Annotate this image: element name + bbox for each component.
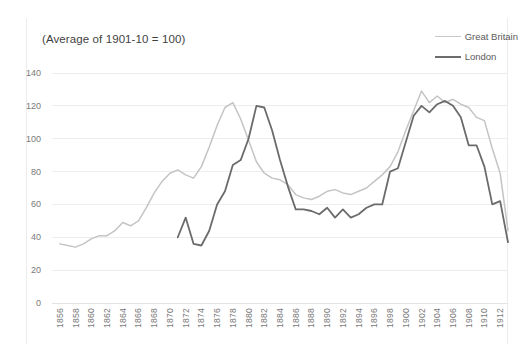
x-axis-tick: 1860 bbox=[85, 308, 97, 348]
y-axis-tick-label: 80 bbox=[31, 167, 41, 177]
x-axis-tick: 1870 bbox=[164, 308, 176, 348]
x-axis-tick: 1866 bbox=[132, 308, 144, 348]
legend-line-swatch-icon bbox=[435, 36, 461, 37]
chart-container: (Average of 1901-10 = 100) Great Britain… bbox=[0, 0, 532, 354]
x-axis-tick: 1894 bbox=[353, 308, 365, 348]
y-axis-tick-label: 120 bbox=[26, 101, 41, 111]
x-axis-tick-label: 1884 bbox=[275, 308, 285, 328]
x-axis-tick: 1874 bbox=[195, 308, 207, 348]
y-axis: 020406080100120140 bbox=[0, 73, 48, 303]
x-axis-tick-label: 1904 bbox=[432, 308, 442, 328]
y-axis-tick-label: 100 bbox=[26, 134, 41, 144]
chart-title: (Average of 1901-10 = 100) bbox=[42, 33, 185, 45]
x-axis-tick-label: 1912 bbox=[495, 308, 505, 328]
x-axis-tick-label: 1902 bbox=[417, 308, 427, 328]
x-axis-tick: 1908 bbox=[463, 308, 475, 348]
x-axis-tick-label: 1892 bbox=[338, 308, 348, 328]
plot-svg bbox=[52, 73, 508, 303]
x-axis-tick: 1856 bbox=[54, 308, 66, 348]
x-axis-tick-label: 1868 bbox=[149, 308, 159, 328]
legend-label-great-britain: Great Britain bbox=[465, 31, 518, 42]
x-axis-tick: 1882 bbox=[258, 308, 270, 348]
x-axis-tick: 1898 bbox=[384, 308, 396, 348]
x-axis-tick-label: 1866 bbox=[133, 308, 143, 328]
x-axis-tick: 1878 bbox=[227, 308, 239, 348]
x-axis-tick: 1888 bbox=[305, 308, 317, 348]
y-axis-tick-label: 40 bbox=[31, 232, 41, 242]
x-axis-tick: 1880 bbox=[243, 308, 255, 348]
y-axis-tick-label: 20 bbox=[31, 265, 41, 275]
y-axis-tick-label: 0 bbox=[36, 298, 41, 308]
x-axis-tick-label: 1898 bbox=[385, 308, 395, 328]
x-axis-tick: 1900 bbox=[400, 308, 412, 348]
series-line-london bbox=[178, 101, 508, 246]
x-axis-tick: 1868 bbox=[148, 308, 160, 348]
x-axis-tick-label: 1880 bbox=[244, 308, 254, 328]
legend-line-swatch-icon bbox=[435, 56, 461, 58]
x-axis-tick: 1910 bbox=[478, 308, 490, 348]
x-axis-tick: 1890 bbox=[321, 308, 333, 348]
x-axis-tick-label: 1862 bbox=[102, 308, 112, 328]
x-axis-tick: 1872 bbox=[180, 308, 192, 348]
x-axis-tick-label: 1900 bbox=[401, 308, 411, 328]
x-axis-tick: 1896 bbox=[368, 308, 380, 348]
x-axis-tick: 1906 bbox=[447, 308, 459, 348]
x-axis-tick-label: 1906 bbox=[448, 308, 458, 328]
x-axis-tick: 1886 bbox=[290, 308, 302, 348]
y-axis-tick-label: 140 bbox=[26, 68, 41, 78]
x-axis-tick-label: 1882 bbox=[259, 308, 269, 328]
grid-lines bbox=[52, 73, 508, 303]
y-axis-tick-label: 60 bbox=[31, 199, 41, 209]
x-axis-tick-label: 1886 bbox=[291, 308, 301, 328]
x-axis-tick: 1876 bbox=[211, 308, 223, 348]
x-axis-tick-label: 1890 bbox=[322, 308, 332, 328]
x-axis-tick-label: 1888 bbox=[306, 308, 316, 328]
legend-item-london[interactable]: London bbox=[435, 51, 497, 62]
x-axis-tick-label: 1908 bbox=[464, 308, 474, 328]
plot-area bbox=[52, 73, 508, 303]
x-axis-tick-label: 1864 bbox=[118, 308, 128, 328]
x-axis-tick: 1912 bbox=[494, 308, 506, 348]
x-axis-tick: 1862 bbox=[101, 308, 113, 348]
x-axis-tick-label: 1870 bbox=[165, 308, 175, 328]
x-axis-tick: 1864 bbox=[117, 308, 129, 348]
x-axis-tick: 1902 bbox=[416, 308, 428, 348]
x-axis-tick-label: 1874 bbox=[196, 308, 206, 328]
legend-item-great-britain[interactable]: Great Britain bbox=[435, 31, 518, 42]
chart-legend: Great Britain London bbox=[435, 31, 518, 62]
x-axis-tick: 1904 bbox=[431, 308, 443, 348]
x-axis-tick: 1884 bbox=[274, 308, 286, 348]
x-axis-tick-label: 1910 bbox=[479, 308, 489, 328]
x-axis-tick-label: 1856 bbox=[55, 308, 65, 328]
x-axis-tick-label: 1894 bbox=[354, 308, 364, 328]
x-axis-tick-label: 1858 bbox=[71, 308, 81, 328]
legend-label-london: London bbox=[465, 51, 497, 62]
x-axis-tick: 1858 bbox=[70, 308, 82, 348]
x-axis-tick-label: 1896 bbox=[369, 308, 379, 328]
x-axis-tick-label: 1876 bbox=[212, 308, 222, 328]
x-axis-tick-label: 1860 bbox=[86, 308, 96, 328]
series-line-great-britain bbox=[60, 91, 508, 247]
x-axis-tick-label: 1872 bbox=[181, 308, 191, 328]
x-axis-tick: 1892 bbox=[337, 308, 349, 348]
x-axis-tick-label: 1878 bbox=[228, 308, 238, 328]
x-axis: 1856185818601862186418661868187018721874… bbox=[52, 306, 508, 350]
